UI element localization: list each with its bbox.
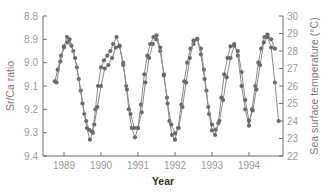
data-point: [105, 54, 109, 58]
data-point: [103, 66, 107, 70]
data-point: [90, 129, 94, 133]
data-point: [121, 63, 125, 67]
left-tick-label: 8.9: [24, 34, 38, 45]
data-point: [265, 35, 269, 39]
data-point: [133, 135, 137, 139]
data-point: [251, 108, 255, 112]
data-point: [254, 87, 258, 91]
data-point: [99, 84, 103, 88]
data-point: [213, 133, 217, 137]
left-y-axis: 8.88.99.09.19.29.39.4: [24, 11, 47, 162]
data-point: [177, 126, 181, 130]
x-tick-label: 1992: [164, 160, 187, 171]
right-tick-label: 22: [287, 151, 299, 162]
data-point: [228, 56, 232, 60]
data-point: [55, 80, 59, 84]
data-point: [166, 101, 170, 105]
right-tick-label: 29: [287, 28, 299, 39]
data-point: [143, 80, 147, 84]
chart: 8.88.99.09.19.29.39.4 222324252627282930…: [0, 0, 326, 194]
left-tick-label: 9.3: [24, 127, 38, 138]
data-point: [269, 37, 273, 41]
data-point: [225, 75, 229, 79]
left-tick-label: 9.2: [24, 104, 38, 115]
data-point: [273, 47, 277, 51]
data-point: [84, 119, 88, 123]
data-point: [262, 40, 266, 44]
right-y-axis: 222324252627282930: [279, 11, 299, 162]
data-point: [210, 128, 214, 132]
data-point: [66, 40, 70, 44]
right-tick-label: 23: [287, 133, 299, 144]
data-point: [114, 45, 118, 49]
left-tick-label: 9.0: [24, 57, 38, 68]
data-point: [273, 80, 277, 84]
right-tick-label: 24: [287, 116, 299, 127]
right-tick-label: 27: [287, 63, 299, 74]
x-tick-label: 1990: [90, 160, 113, 171]
x-tick-label: 1994: [238, 160, 261, 171]
data-point: [151, 42, 155, 46]
data-point: [142, 72, 146, 76]
data-point: [114, 35, 118, 39]
right-tick-label: 28: [287, 46, 299, 57]
data-point: [58, 59, 62, 63]
data-point: [102, 58, 106, 62]
right-tick-label: 26: [287, 81, 299, 92]
data-point: [247, 119, 251, 123]
x-axis: 198919901991199219931994: [43, 152, 283, 171]
data-point: [217, 119, 221, 123]
right-tick-label: 30: [287, 11, 299, 22]
x-tick-label: 1993: [201, 160, 224, 171]
data-point: [191, 38, 195, 42]
x-axis-title: Year: [152, 175, 174, 187]
data-point: [180, 105, 184, 109]
data-point: [117, 44, 121, 48]
data-point: [173, 131, 177, 135]
data-point: [80, 101, 84, 105]
data-point: [195, 37, 199, 41]
data-point: [136, 126, 140, 130]
data-point: [210, 122, 214, 126]
data-point: [258, 63, 262, 67]
data-point: [62, 45, 66, 49]
right-tick-label: 25: [287, 98, 299, 109]
data-point: [111, 42, 115, 46]
data-point: [147, 56, 151, 60]
data-point: [110, 56, 114, 60]
data-point: [240, 70, 244, 74]
left-tick-label: 9.1: [24, 81, 38, 92]
data-point: [169, 122, 173, 126]
data-point: [247, 124, 251, 128]
data-point: [158, 45, 162, 49]
data-point: [199, 52, 203, 56]
data-point: [69, 44, 73, 48]
data-point: [221, 98, 225, 102]
data-point: [88, 138, 92, 142]
data-point: [125, 87, 129, 91]
data-point: [203, 77, 207, 81]
left-axis-title: Sr/Ca ratio: [4, 61, 16, 111]
data-point: [206, 105, 210, 109]
data-point: [77, 77, 81, 81]
right-axis-title: Sea surface temperature (°C): [308, 17, 320, 154]
data-point: [132, 126, 136, 130]
data-point: [129, 112, 133, 116]
data-point: [108, 49, 112, 53]
data-point: [73, 56, 77, 60]
data-point: [140, 110, 144, 114]
data-point: [92, 122, 96, 126]
data-point: [243, 98, 247, 102]
data-point: [184, 80, 188, 84]
data-point: [99, 65, 103, 69]
data-point: [106, 63, 110, 67]
data-point: [214, 128, 218, 132]
left-tick-label: 9.4: [24, 151, 38, 162]
data-point: [162, 73, 166, 77]
x-tick-label: 1991: [127, 160, 150, 171]
data-point: [173, 138, 177, 142]
data-point: [95, 105, 99, 109]
data-point: [236, 49, 240, 53]
data-point: [228, 44, 232, 48]
data-point: [188, 56, 192, 60]
